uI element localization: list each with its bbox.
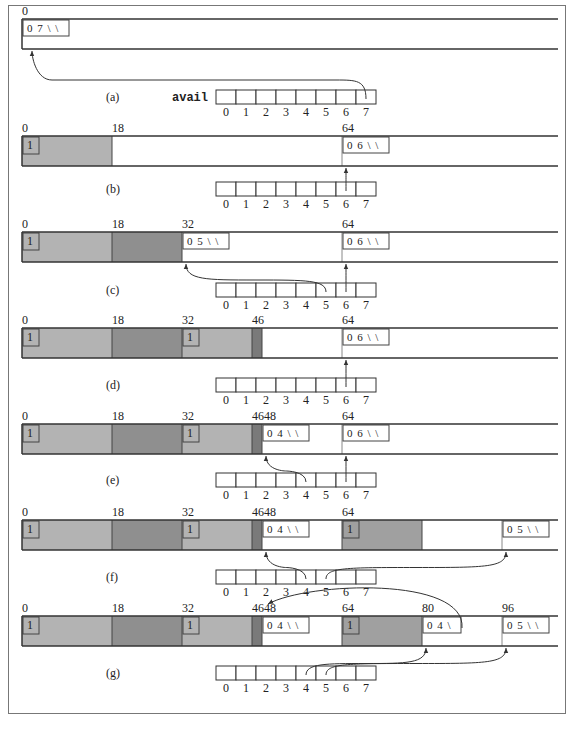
avail-cell-4	[296, 182, 316, 196]
avail-index: 2	[263, 105, 269, 119]
allocated-block	[112, 232, 182, 262]
panel-label: (c)	[106, 283, 119, 297]
avail-cell-3	[276, 182, 296, 196]
panel-b: 10 6 \ \01864(b)01234567	[22, 121, 558, 211]
allocated-block	[22, 232, 112, 262]
allocated-tag: 1	[347, 618, 353, 632]
avail-index: 5	[323, 105, 329, 119]
address-label: 4648	[252, 505, 276, 519]
avail-index: 6	[343, 681, 349, 695]
avail-index: 1	[243, 298, 249, 312]
avail-index: 4	[303, 197, 309, 211]
free-header: 0 4 \ \	[267, 427, 299, 439]
avail-index: 3	[283, 488, 289, 502]
free-header: 0 4 \	[427, 619, 452, 631]
address-label: 0	[22, 217, 28, 231]
avail-index: 5	[323, 197, 329, 211]
avail-cell-5	[316, 473, 336, 487]
address-label: 32	[182, 505, 194, 519]
allocated-block	[252, 328, 262, 358]
avail-index: 0	[223, 681, 229, 695]
avail-cell-4	[296, 90, 316, 104]
avail-index: 7	[363, 105, 369, 119]
allocated-block	[112, 520, 182, 550]
address-label: 32	[182, 313, 194, 327]
address-label: 0	[22, 4, 28, 18]
free-header: 0 7 \ \	[27, 22, 59, 34]
avail-index: 5	[323, 488, 329, 502]
avail-index: 7	[363, 393, 369, 407]
address-label: 80	[422, 601, 434, 615]
avail-index: 6	[343, 393, 349, 407]
avail-cell-1	[236, 473, 256, 487]
avail-cell-1	[236, 570, 256, 584]
address-label: 0	[22, 313, 28, 327]
avail-index: 4	[303, 105, 309, 119]
avail-cell-1	[236, 90, 256, 104]
allocated-block	[342, 520, 422, 550]
avail-cell-3	[276, 666, 296, 680]
avail-cell-1	[236, 182, 256, 196]
panel-label: (f)	[106, 570, 118, 584]
address-label: 64	[342, 313, 354, 327]
address-label: 96	[502, 601, 514, 615]
avail-index: 7	[363, 488, 369, 502]
panel-e: 110 4 \ \0 6 \ \01832464864(e)01234567	[22, 409, 558, 502]
avail-cell-3	[276, 473, 296, 487]
allocated-block	[252, 424, 262, 454]
panel-label: (g)	[106, 666, 120, 680]
avail-index: 5	[323, 585, 329, 599]
allocated-tag: 1	[27, 426, 33, 440]
avail-index: 1	[243, 393, 249, 407]
avail-index: 3	[283, 197, 289, 211]
avail-cell-0	[216, 283, 236, 297]
allocated-tag: 1	[27, 618, 33, 632]
avail-index: 2	[263, 585, 269, 599]
free-header: 0 6 \ \	[347, 427, 379, 439]
avail-cell-2	[256, 283, 276, 297]
free-header: 0 6 \ \	[347, 139, 379, 151]
avail-index: 0	[223, 585, 229, 599]
address-label: 64	[342, 409, 354, 423]
avail-cell-0	[216, 666, 236, 680]
avail-index: 1	[243, 585, 249, 599]
avail-index: 7	[363, 585, 369, 599]
avail-cell-2	[256, 570, 276, 584]
avail-cell-7	[356, 666, 376, 680]
address-label: 0	[22, 409, 28, 423]
address-label: 64	[342, 601, 354, 615]
free-block	[112, 136, 342, 166]
avail-index: 5	[323, 393, 329, 407]
allocated-block	[22, 136, 112, 166]
avail-index: 0	[223, 488, 229, 502]
avail-index: 0	[223, 105, 229, 119]
avail-cell-2	[256, 666, 276, 680]
panel-label: (b)	[106, 182, 120, 196]
free-header: 0 6 \ \	[347, 331, 379, 343]
allocated-block	[112, 616, 182, 646]
avail-index: 6	[343, 298, 349, 312]
address-label: 18	[112, 505, 124, 519]
address-label: 0	[22, 121, 28, 135]
avail-cell-2	[256, 473, 276, 487]
panel-f: 110 4 \ \10 5 \ \01832464864(f)01234567	[22, 505, 558, 599]
allocated-tag: 1	[27, 234, 33, 248]
panel-label: (e)	[106, 473, 119, 487]
avail-index: 2	[263, 488, 269, 502]
avail-cell-7	[356, 283, 376, 297]
avail-index: 1	[243, 197, 249, 211]
avail-index: 6	[343, 488, 349, 502]
avail-index: 3	[283, 681, 289, 695]
avail-cell-0	[216, 182, 236, 196]
panel-a: 0 7 \ \0(a)avail01234567	[22, 4, 558, 119]
avail-index: 1	[243, 105, 249, 119]
avail-index: 6	[343, 197, 349, 211]
free-header: 0 5 \ \	[187, 235, 219, 247]
allocated-tag: 1	[27, 522, 33, 536]
avail-index: 2	[263, 681, 269, 695]
address-label: 64	[342, 217, 354, 231]
panel-label: (a)	[106, 90, 119, 104]
avail-cell-0	[216, 570, 236, 584]
avail-index: 2	[263, 393, 269, 407]
panel-g: 110 4 \ \10 4 \0 5 \ \018324648648096(g)…	[22, 588, 558, 695]
